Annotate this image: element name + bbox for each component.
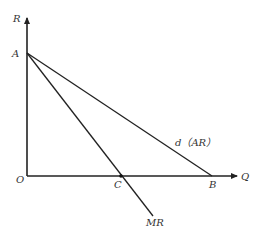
x-axis-label: Q <box>241 171 249 182</box>
point-b-label: B <box>208 179 216 190</box>
demand-curve <box>27 53 212 176</box>
point-c-marker <box>119 174 123 178</box>
revenue-diagram: R Q O A C B d（AR） MR <box>0 0 258 238</box>
mr-curve-label: MR <box>145 217 164 228</box>
demand-curve-label: d（AR） <box>175 137 216 148</box>
marginal-revenue-curve <box>27 53 153 216</box>
point-a-label: A <box>11 48 19 59</box>
point-c-label: C <box>114 179 122 190</box>
origin-label: O <box>16 174 24 185</box>
y-axis-label: R <box>12 13 21 24</box>
